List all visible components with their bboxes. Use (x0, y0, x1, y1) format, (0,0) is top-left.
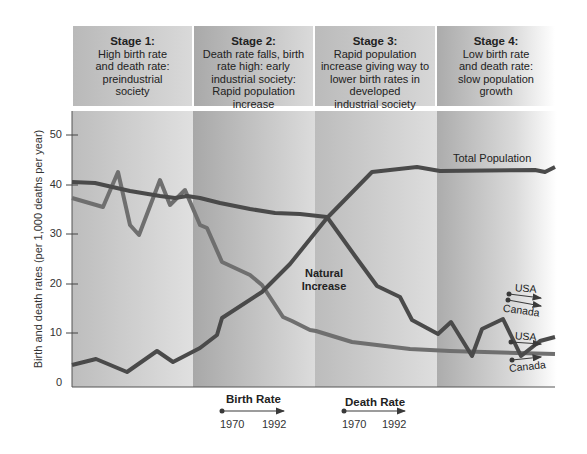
birth-rate-legend-start: 1970 (220, 418, 244, 430)
usa-birth-label: USA (515, 281, 537, 294)
usa-death-label: USA (515, 329, 537, 342)
death-rate-legend-title: Death Rate (345, 396, 405, 408)
natural-increase-label-line1: Natural (299, 267, 349, 279)
death-rate-legend-start: 1970 (342, 418, 366, 430)
y-tick-label: 0 (40, 376, 62, 388)
death-rate-legend-arrow (342, 409, 406, 414)
birth-rate-legend-title: Birth Rate (226, 393, 281, 405)
natural-increase-label-line2: Increase (299, 280, 349, 292)
birth-rate-legend-label: Birth Rate (226, 393, 281, 405)
stage-1-band (72, 111, 193, 387)
stage-2-band (193, 111, 315, 387)
chart-plot (0, 0, 587, 454)
y-axis-label: Birth and death rates (per 1,000 deaths … (32, 129, 44, 369)
death-rate-legend-label: Death Rate (345, 396, 405, 408)
total-population-label: Total Population (453, 152, 531, 164)
death-rate-legend-end: 1992 (382, 418, 406, 430)
birth-rate-legend-end: 1992 (262, 418, 286, 430)
birth-rate-legend-arrow (220, 409, 285, 414)
